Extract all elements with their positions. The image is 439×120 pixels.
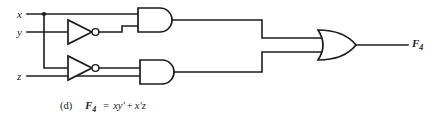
wire-and-bottom-to-or [174,52,322,72]
and-gate-bottom-body [140,60,174,84]
input-label-z: z [17,71,21,82]
figure-caption: (d)F4=xy′+x′z [60,101,146,114]
inverter-top-bubble-icon [92,29,99,36]
caption-expression: xy′+x′z [113,100,146,111]
output-label-subscript: 4 [419,43,423,52]
caption-plus-sign: + [127,100,133,111]
wire-ynot-to-and-top [99,26,138,32]
caption-function-name: F4 [85,100,96,111]
caption-term-1: xy′ [113,100,125,111]
wire-and-top-to-or [172,20,322,38]
caption-function-subscript: 4 [92,105,96,114]
caption-tag: (d) [60,100,72,111]
inverter-top-body [68,20,92,44]
or-gate-body [318,30,356,60]
caption-equals-sign: = [103,100,109,111]
logic-circuit-figure: x y z F4 (d)F4=xy′+x′z [0,0,439,120]
wire-x-branch-to-inverter [44,14,68,68]
inverter-bottom-bubble-icon [92,65,99,72]
input-label-y: y [17,27,22,38]
and-gate-top-body [138,8,172,32]
input-label-x: x [17,9,22,20]
output-label-f4: F4 [412,38,423,52]
junction-dot-x [42,12,46,16]
caption-term-2: x′z [135,100,146,111]
